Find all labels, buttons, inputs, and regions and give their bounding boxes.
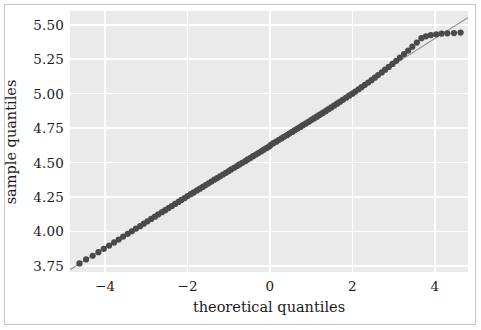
y-tick-label: 4.25 xyxy=(2,189,64,205)
qq-plot-figure: sample quantiles 3.754.004.254.504.755.0… xyxy=(0,0,481,330)
data-point xyxy=(451,30,457,36)
x-tick-label: 4 xyxy=(405,278,465,294)
x-tick-label: −4 xyxy=(75,278,135,294)
y-tick-label: 3.75 xyxy=(2,258,64,274)
data-point xyxy=(444,30,450,36)
x-tick-label: 2 xyxy=(323,278,383,294)
data-point xyxy=(433,31,439,37)
y-tick-label: 5.25 xyxy=(2,51,64,67)
x-axis-tick-labels: −4−2024 xyxy=(70,278,468,298)
y-tick-label: 5.00 xyxy=(2,86,64,102)
data-layer xyxy=(70,11,468,272)
data-point xyxy=(83,256,89,262)
data-point xyxy=(101,246,107,252)
plot-area xyxy=(70,11,468,272)
y-tick-label: 5.50 xyxy=(2,17,64,33)
y-tick-label: 4.50 xyxy=(2,155,64,171)
data-point xyxy=(414,39,420,45)
data-point xyxy=(428,32,434,38)
data-point xyxy=(439,30,445,36)
data-points xyxy=(76,30,463,267)
x-axis-label: theoretical quantiles xyxy=(70,299,468,315)
x-tick-label: −2 xyxy=(158,278,218,294)
y-tick-label: 4.00 xyxy=(2,223,64,239)
data-point xyxy=(95,249,101,255)
data-point xyxy=(90,253,96,259)
data-point xyxy=(457,30,463,36)
x-tick-label: 0 xyxy=(240,278,300,294)
y-axis-tick-labels: 3.754.004.254.504.755.005.255.50 xyxy=(0,11,64,272)
data-point xyxy=(76,260,82,266)
y-tick-label: 4.75 xyxy=(2,120,64,136)
